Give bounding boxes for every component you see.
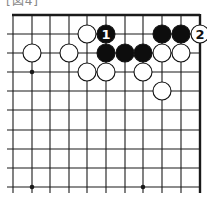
stone-move-number: 1 (101, 27, 110, 42)
star-point (30, 185, 35, 190)
white-stone (78, 63, 96, 81)
stones: 12 (23, 25, 207, 100)
star-point (30, 70, 35, 75)
white-stone (60, 44, 78, 62)
black-stone-body (153, 25, 171, 43)
white-stone-body (78, 25, 96, 43)
white-stone (153, 82, 171, 100)
black-stone: 1 (97, 25, 115, 43)
white-stone (153, 44, 171, 62)
white-stone-body (153, 82, 171, 100)
stone-move-number: 2 (195, 27, 204, 42)
white-stone-body (60, 44, 78, 62)
white-stone: 2 (191, 25, 207, 43)
black-stone (116, 44, 134, 62)
white-stone (134, 63, 152, 81)
black-stone-body (134, 44, 152, 62)
black-stone-body (116, 44, 134, 62)
black-stone (153, 25, 171, 43)
white-stone-body (134, 63, 152, 81)
white-stone-body (153, 44, 171, 62)
white-stone (23, 44, 41, 62)
black-stone (97, 44, 115, 62)
white-stone (78, 25, 96, 43)
white-stone (97, 63, 115, 81)
white-stone-body (97, 63, 115, 81)
star-point (141, 185, 146, 190)
black-stone (134, 44, 152, 62)
black-stone-body (97, 44, 115, 62)
black-stone-body (172, 25, 190, 43)
white-stone-body (23, 44, 41, 62)
go-board: 12 (0, 0, 207, 202)
white-stone-body (78, 63, 96, 81)
white-stone-body (172, 44, 190, 62)
white-stone (172, 44, 190, 62)
black-stone (172, 25, 190, 43)
